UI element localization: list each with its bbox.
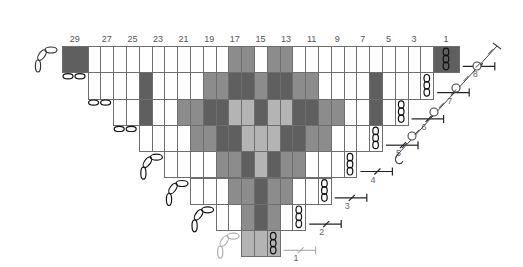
turning-chain-icon bbox=[63, 74, 73, 79]
turning-chain-icon bbox=[141, 167, 146, 179]
slip-stitch-icon bbox=[408, 132, 416, 140]
turning-chain-icon bbox=[75, 74, 85, 79]
slip-stitch-icon bbox=[430, 108, 438, 116]
crochet-chart: 2927252321191715131197531 87654321 bbox=[0, 0, 523, 267]
slip-stitch-icon bbox=[452, 84, 460, 92]
turning-chain-icon bbox=[35, 60, 40, 72]
turning-chain-icon bbox=[218, 246, 223, 258]
slip-stitch-edge-icon bbox=[493, 43, 501, 49]
turning-chain-icon bbox=[192, 220, 197, 232]
turning-chain-icon bbox=[126, 126, 136, 131]
turning-chain-icon bbox=[166, 194, 171, 206]
turning-chain-icon bbox=[114, 126, 124, 131]
turning-chain-icon bbox=[89, 100, 99, 105]
turning-chain-icon bbox=[101, 100, 111, 105]
slip-stitch-edge-icon bbox=[395, 153, 403, 164]
stitch-symbols bbox=[0, 0, 523, 267]
